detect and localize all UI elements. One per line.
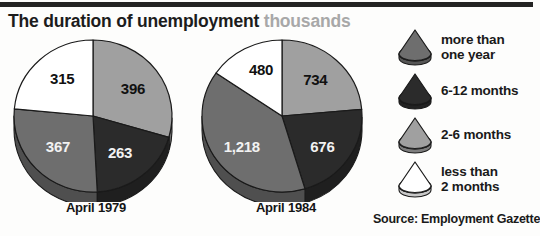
- pie-chart-1979-caption: April 1979: [6, 200, 186, 215]
- pie-slice-value: 315: [50, 70, 74, 87]
- pie-chart-1984: 7346761,218480 April 1984: [196, 34, 376, 202]
- legend-label-6-12-months: 6-12 months: [441, 83, 518, 98]
- page-title: The duration of unemployment thousands: [8, 11, 350, 32]
- legend: more than one year 6-12 months 2-6 month…: [392, 26, 533, 202]
- legend-item-6-12-months: 6-12 months: [392, 70, 533, 112]
- pie-slice-value: 263: [108, 144, 132, 161]
- legend-label-2-6-months: 2-6 months: [441, 127, 511, 142]
- source-note: Source: Employment Gazette: [373, 212, 540, 226]
- pie-wedge-icon: [392, 158, 438, 200]
- top-rule: [0, 2, 533, 7]
- pie-wedge-icon: [392, 70, 438, 112]
- legend-label-line2: 2 months: [441, 179, 499, 194]
- legend-label-line1: 6-12 months: [441, 83, 518, 98]
- title-main: The duration of unemployment: [8, 11, 259, 31]
- pie-chart-1984-caption: April 1984: [196, 200, 376, 215]
- pie-slice-value: 1,218: [224, 138, 260, 155]
- pie-wedge-icon: [392, 70, 438, 112]
- legend-item-2-6-months: 2-6 months: [392, 114, 533, 156]
- legend-item-less-than-2-months: less than 2 months: [392, 158, 533, 200]
- pie-wedge-icon: [392, 26, 438, 68]
- pie-wedge-icon: [392, 158, 438, 200]
- pie-slice-value: 396: [121, 80, 145, 97]
- pie-slice-value: 676: [310, 138, 334, 155]
- legend-label-line2: one year: [441, 47, 495, 62]
- legend-label-line1: more than: [441, 32, 504, 47]
- legend-label-more-than-one-year: more than one year: [441, 32, 504, 62]
- pie-slice-value: 734: [303, 71, 328, 88]
- legend-item-more-than-one-year: more than one year: [392, 26, 533, 68]
- pie-chart-1979-svg: 396263367315: [6, 34, 186, 202]
- legend-label-less-than-2-months: less than 2 months: [441, 164, 499, 194]
- pie-wedge-icon: [392, 114, 438, 156]
- pie-chart-1979: 396263367315 April 1979: [6, 34, 186, 202]
- pie-wedge-icon: [392, 26, 438, 68]
- title-unit: thousands: [264, 11, 351, 31]
- pie-chart-1984-svg: 7346761,218480: [196, 34, 376, 202]
- pie-wedge-icon: [392, 114, 438, 156]
- pie-slice-value: 367: [46, 138, 70, 155]
- legend-label-line1: 2-6 months: [441, 127, 511, 142]
- pie-slice-value: 480: [249, 61, 273, 78]
- legend-label-line1: less than: [441, 164, 498, 179]
